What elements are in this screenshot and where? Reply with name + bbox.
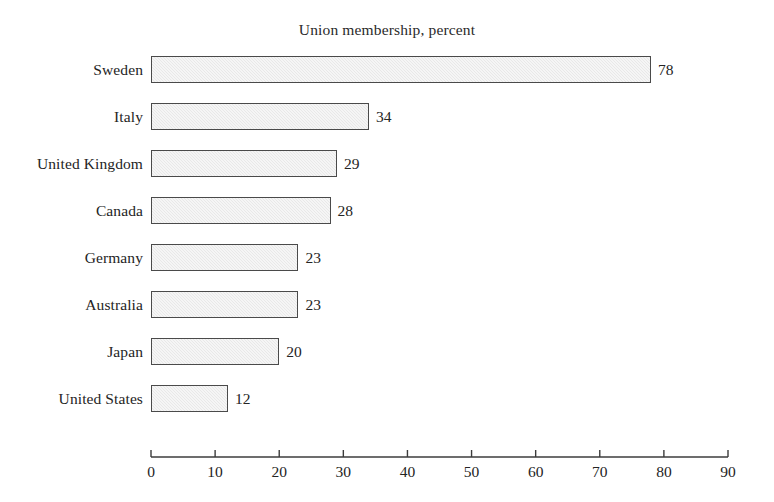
bar xyxy=(151,103,369,130)
bar-value-label: 23 xyxy=(305,249,321,267)
category-label: Japan xyxy=(107,343,143,361)
bar-row: Australia23 xyxy=(0,291,774,318)
bar-value-label: 23 xyxy=(305,296,321,314)
x-tick-label: 50 xyxy=(464,463,480,481)
bar-value-label: 29 xyxy=(344,155,360,173)
bar-row: Canada28 xyxy=(0,197,774,224)
bar-value-label: 34 xyxy=(376,108,392,126)
bar-row: Sweden78 xyxy=(0,56,774,83)
bar xyxy=(151,56,651,83)
x-tick-label: 60 xyxy=(528,463,544,481)
bar-value-label: 12 xyxy=(235,390,251,408)
category-label: Canada xyxy=(96,202,143,220)
x-tick-label: 80 xyxy=(656,463,672,481)
bar-chart: Union membership, percent Sweden78Italy3… xyxy=(0,0,774,502)
bar-row: Germany23 xyxy=(0,244,774,271)
bar-value-label: 20 xyxy=(286,343,302,361)
bar xyxy=(151,150,337,177)
bar-row: United Kingdom29 xyxy=(0,150,774,177)
x-tick-label: 70 xyxy=(592,463,608,481)
bar-value-label: 28 xyxy=(338,202,354,220)
bar xyxy=(151,338,279,365)
bar xyxy=(151,244,298,271)
chart-title: Union membership, percent xyxy=(0,21,774,39)
axis-geometry xyxy=(151,450,728,457)
category-label: Germany xyxy=(85,249,143,267)
category-label: Italy xyxy=(114,108,143,126)
category-label: Australia xyxy=(85,296,143,314)
bar-row: Italy34 xyxy=(0,103,774,130)
category-label: United Kingdom xyxy=(37,155,143,173)
x-tick-label: 0 xyxy=(147,463,155,481)
x-tick-label: 90 xyxy=(720,463,736,481)
bar xyxy=(151,385,228,412)
bar-row: Japan20 xyxy=(0,338,774,365)
x-tick-label: 10 xyxy=(207,463,223,481)
category-label: United States xyxy=(59,390,143,408)
x-tick-label: 30 xyxy=(336,463,352,481)
bar xyxy=(151,291,298,318)
x-tick-label: 20 xyxy=(271,463,287,481)
x-tick-label: 40 xyxy=(400,463,416,481)
bar-value-label: 78 xyxy=(658,61,674,79)
category-label: Sweden xyxy=(93,61,143,79)
bar-row: United States12 xyxy=(0,385,774,412)
bar xyxy=(151,197,331,224)
